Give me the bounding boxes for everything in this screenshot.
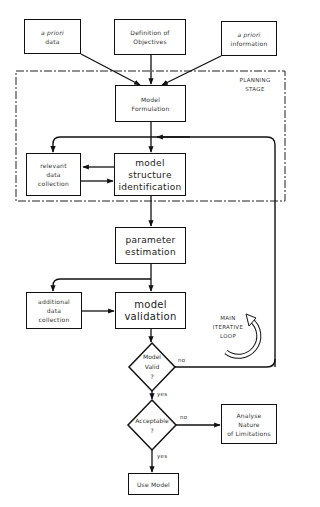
acceptable-no-label: no <box>180 413 187 422</box>
valid-yes-label: yes <box>157 390 167 399</box>
model-validation-box: model validation <box>115 292 186 329</box>
parameter-estimation-box: parameter estimation <box>115 227 186 264</box>
valid-no-label: no <box>178 356 185 365</box>
relevant-data-collection-box: relevant data collection <box>26 153 81 196</box>
a-priori-data-box: a priori data <box>24 19 81 54</box>
planning-stage-label: PLANNING STAGE <box>228 76 282 94</box>
acceptable-text: Acceptable ? <box>128 416 176 436</box>
analyse-limitations-box: Analyse Nature of Limitations <box>221 404 277 444</box>
model-formulation-box: Model Formulation <box>115 85 186 122</box>
definition-of-objectives-box: Definition of Objectives <box>114 19 186 55</box>
model-structure-identification-box: model structure identification <box>114 153 186 196</box>
additional-data-collection-box: additional data collection <box>26 292 82 329</box>
acceptable-yes-label: yes <box>157 452 167 461</box>
model-valid-text: Model Valid ? <box>132 352 172 382</box>
a-priori-information-box: a priori information <box>221 21 277 56</box>
use-model-box: Use Model <box>128 473 179 495</box>
main-iterative-loop-label: MAIN ITERATIVE LOOP <box>208 314 248 341</box>
